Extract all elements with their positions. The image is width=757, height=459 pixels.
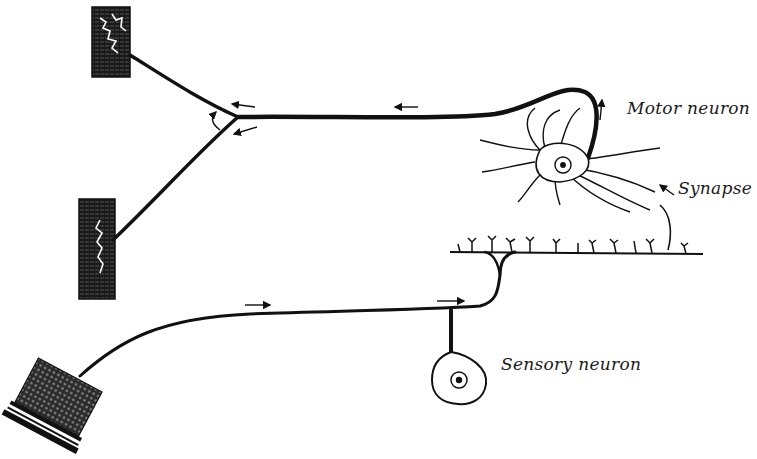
- motor-axon: [113, 55, 597, 240]
- motor-neuron: [480, 108, 660, 212]
- upper-muscle: [92, 7, 130, 77]
- spinal-collateral: [450, 236, 703, 254]
- sensory-neuron: [432, 352, 486, 404]
- reflex-arc-diagram: Motor neuron Synapse Sensory neuron: [0, 0, 757, 459]
- middle-muscle: [79, 199, 115, 299]
- sensory-neuron-label: Sensory neuron: [501, 354, 641, 374]
- arrow-lower-branch: [234, 127, 257, 134]
- arrow-motor-up: [600, 100, 602, 120]
- synapse-connector: [660, 205, 670, 250]
- arrow-upper-branch: [232, 104, 255, 107]
- arrow-branch-curve: [213, 112, 220, 130]
- skin-receptor: [2, 355, 108, 454]
- diagram-svg: [0, 0, 757, 459]
- direction-arrows: [213, 100, 674, 305]
- synapse-label: Synapse: [678, 178, 752, 198]
- motor-neuron-label: Motor neuron: [627, 98, 750, 118]
- arrow-synapse: [660, 185, 674, 195]
